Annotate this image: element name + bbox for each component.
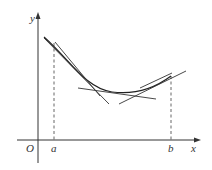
tangent-line-4 (119, 71, 186, 104)
x-axis-label: x (190, 142, 196, 154)
tangent-line-2 (55, 42, 100, 96)
origin-label: O (26, 142, 34, 154)
a-label: a (51, 142, 57, 154)
y-axis-label: y (29, 12, 35, 24)
b-label: b (168, 142, 174, 154)
diagram-canvas: y O a b x (0, 0, 212, 170)
function-curve (44, 37, 171, 93)
y-axis-arrow-icon (36, 12, 41, 19)
